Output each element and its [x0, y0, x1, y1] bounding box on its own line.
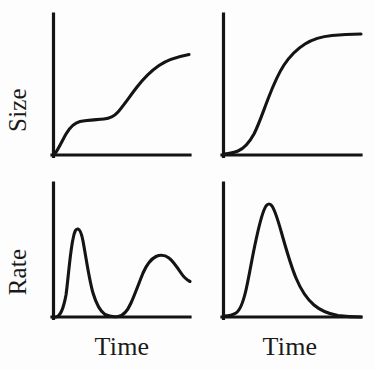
figure-root: Size Rate Time Time — [0, 0, 375, 370]
sigmoid-growth-curve — [224, 34, 361, 154]
y-axis-label-size: Size — [4, 88, 31, 132]
biphasic-growth-curve — [54, 55, 189, 156]
x-axis-label-time-left: Time — [95, 332, 150, 361]
panel-top-right — [222, 14, 361, 157]
panel-top-left — [52, 14, 190, 157]
y-axis-label-rate: Rate — [4, 249, 31, 296]
panel-bottom-left — [52, 183, 190, 319]
bimodal-rate-curve — [56, 229, 190, 317]
unimodal-rate-curve — [224, 204, 361, 317]
figure-canvas: Size Rate Time Time — [0, 0, 375, 370]
panel-bottom-right — [222, 183, 361, 319]
x-axis-label-time-right: Time — [263, 332, 318, 361]
